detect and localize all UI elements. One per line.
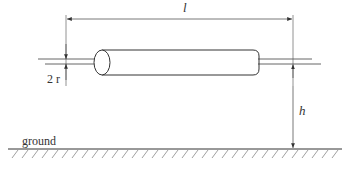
ground-plane xyxy=(8,149,342,158)
cylinder xyxy=(94,50,259,75)
figure-caption xyxy=(4,160,349,170)
diameter-label-text: 2 r xyxy=(47,72,60,86)
ground-label: ground xyxy=(22,134,56,149)
height-label: h xyxy=(299,103,306,119)
wire xyxy=(38,59,321,64)
length-label: l xyxy=(183,0,187,16)
diameter-label: 2 r xyxy=(47,72,60,87)
